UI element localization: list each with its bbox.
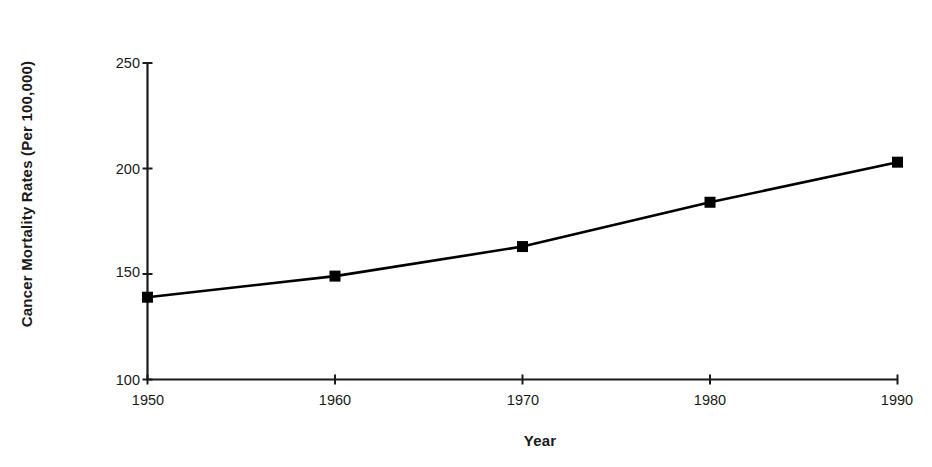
- plot-area: [0, 0, 932, 467]
- chart-container: Cancer Mortality Rates (Per 100,000) 250…: [0, 0, 932, 467]
- data-point-1950: [142, 292, 153, 303]
- series-markers: [142, 157, 903, 303]
- data-point-1980: [705, 197, 716, 208]
- data-point-1960: [330, 271, 341, 282]
- data-point-1970: [517, 241, 528, 252]
- data-point-1990: [892, 157, 903, 168]
- axis-lines: [147, 63, 898, 380]
- series-line-cancer-mortality: [148, 162, 898, 297]
